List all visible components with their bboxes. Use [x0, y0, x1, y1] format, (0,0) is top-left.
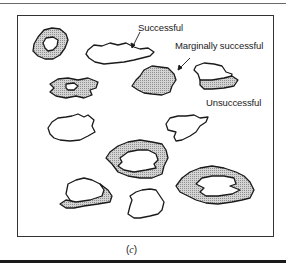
bottom-rule: [0, 260, 286, 263]
blob-outline-left: [48, 114, 95, 141]
blob-outline-bottom: [128, 189, 164, 218]
figure-caption: (c): [126, 244, 137, 255]
blob-partial-lower-left: [60, 178, 112, 208]
blob-successful: [86, 43, 154, 64]
arrow-marginal: [178, 58, 190, 70]
blob-ring-top-left: [33, 28, 68, 59]
caption-close: ): [134, 244, 137, 255]
blob-ring-lower-right: [176, 166, 254, 204]
blob-marginal-center: [132, 66, 176, 95]
blob-ring-center: [106, 140, 168, 178]
label-successful: Successful: [138, 22, 183, 33]
label-marginally-successful: Marginally successful: [175, 40, 263, 51]
label-unsuccessful: Unsuccessful: [206, 97, 261, 108]
blob-outline-right: [166, 115, 208, 141]
arrow-successful: [131, 32, 140, 48]
blob-filled-left-middle: [50, 78, 98, 98]
blob-partial-right: [194, 63, 238, 89]
